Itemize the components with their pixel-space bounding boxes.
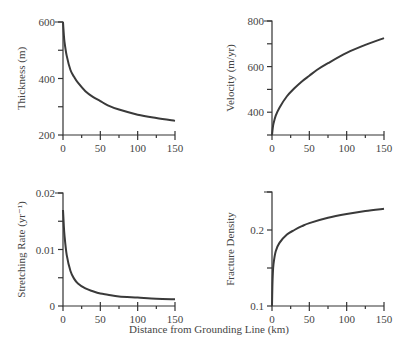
x-tick-label: 100	[338, 142, 355, 154]
x-tick-label: 0	[60, 142, 66, 154]
panel-thickness: 050100150200400600Thickness (m)	[15, 16, 184, 154]
axes	[264, 21, 384, 135]
y-tick-label: 400	[248, 106, 265, 118]
x-tick-label: 50	[304, 142, 316, 154]
y-tick-label: 200	[39, 129, 56, 141]
y-tick-label: 0.1	[250, 300, 264, 312]
panel-stretching-rate: 05010015000.010.02Stretching Rate (yr⁻¹)	[15, 187, 184, 325]
axes	[264, 192, 384, 306]
y-axis-label: Velocity (m/yr)	[224, 44, 237, 112]
y-tick-label: 400	[39, 73, 56, 85]
y-tick-label: 600	[248, 61, 265, 73]
y-axis-label: Fracture Density	[224, 212, 236, 286]
x-tick-label: 100	[129, 142, 146, 154]
x-tick-label: 50	[95, 142, 107, 154]
axes	[55, 193, 175, 306]
y-tick-label: 0	[50, 300, 56, 312]
y-tick-label: 0.02	[36, 187, 55, 199]
y-tick-label: 600	[39, 16, 56, 28]
panel-velocity: 050100150400600800Velocity (m/yr)	[224, 15, 393, 154]
y-tick-label: 0.2	[250, 224, 264, 236]
y-axis-label: Thickness (m)	[15, 47, 28, 111]
figure: 050100150200400600Thickness (m)050100150…	[0, 0, 410, 362]
panel-fracture-density: 0501001500.10.2Fracture Density	[224, 192, 393, 325]
y-axis-label: Stretching Rate (yr⁻¹)	[15, 201, 28, 298]
x-tick-label: 150	[167, 142, 184, 154]
shared-xlabel: Distance from Grounding Line (km)	[0, 323, 410, 335]
y-tick-label: 0.01	[36, 244, 55, 256]
data-curve	[272, 209, 384, 306]
x-tick-label: 0	[269, 142, 275, 154]
data-curve	[63, 210, 175, 299]
x-tick-label: 150	[376, 142, 393, 154]
data-curve	[272, 38, 384, 135]
y-tick-label: 800	[248, 15, 265, 27]
data-curve	[63, 22, 175, 121]
